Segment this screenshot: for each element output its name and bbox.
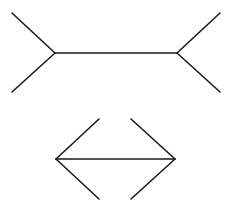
fin-line xyxy=(131,119,175,159)
figure-fins-out xyxy=(12,13,220,92)
fin-line xyxy=(177,13,220,53)
figure-fins-in xyxy=(56,119,175,199)
fin-line xyxy=(12,13,55,53)
muller-lyer-diagram xyxy=(0,0,229,210)
fin-line xyxy=(56,119,99,159)
fin-line xyxy=(131,159,175,199)
fin-line xyxy=(56,159,99,199)
fin-line xyxy=(177,53,220,92)
fin-line xyxy=(12,53,55,92)
